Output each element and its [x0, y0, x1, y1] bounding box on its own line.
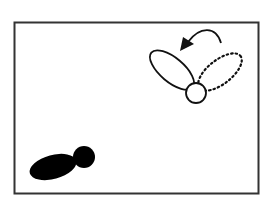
- pivot-circle: [186, 83, 206, 103]
- filled-circle: [73, 146, 95, 168]
- diagram-canvas: [0, 0, 270, 206]
